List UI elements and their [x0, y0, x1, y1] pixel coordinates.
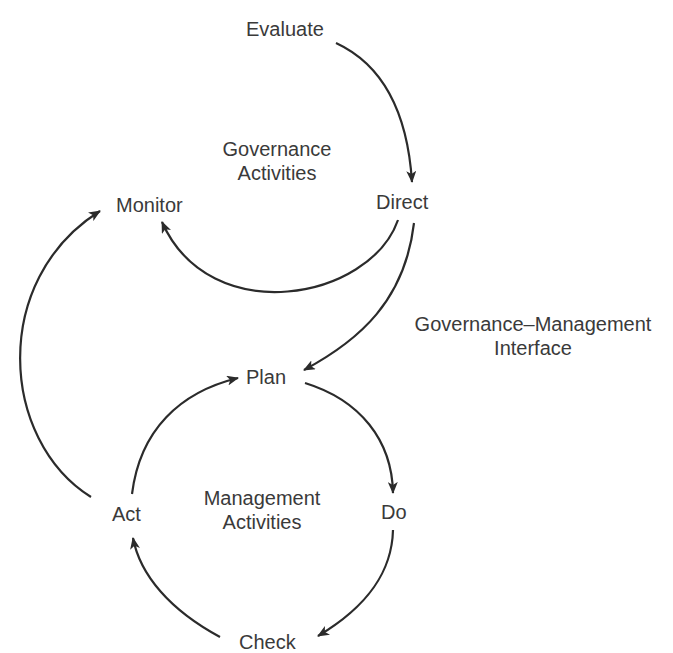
region-label-management: Management Activities [204, 486, 321, 534]
management-line-2: Activities [204, 510, 321, 534]
governance-line-1: Governance [223, 137, 332, 161]
node-act: Act [112, 502, 141, 526]
node-plan: Plan [246, 365, 286, 389]
interface-line-1: Governance–Management [415, 312, 652, 336]
arrow-direct-to-monitor [162, 220, 398, 292]
arrow-plan-to-do [305, 383, 393, 493]
governance-line-2: Activities [223, 161, 332, 185]
region-label-governance: Governance Activities [223, 137, 332, 185]
node-evaluate: Evaluate [246, 17, 324, 41]
diagram-canvas: Evaluate Direct Monitor Plan Do Check Ac… [0, 0, 673, 653]
management-line-1: Management [204, 486, 321, 510]
arrow-check-to-act [133, 538, 220, 637]
arrow-act-to-monitor [20, 211, 100, 497]
arrow-evaluate-to-direct [336, 43, 412, 182]
interface-line-2: Interface [415, 336, 652, 360]
arrow-direct-to-plan [304, 223, 414, 370]
region-label-interface: Governance–Management Interface [415, 312, 652, 360]
node-do: Do [381, 500, 407, 524]
node-monitor: Monitor [116, 193, 183, 217]
arrow-do-to-check [318, 530, 393, 636]
node-check: Check [239, 630, 296, 653]
arrow-act-to-plan [132, 378, 238, 494]
node-direct: Direct [376, 190, 428, 214]
